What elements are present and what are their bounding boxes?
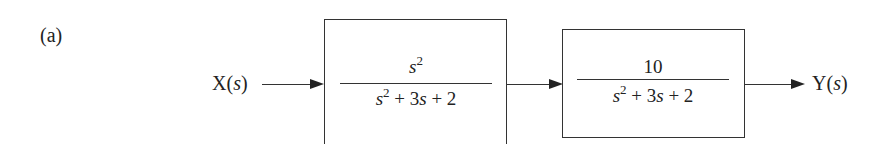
input-var: s xyxy=(233,72,241,94)
block-1-denominator: s2 + 3s + 2 xyxy=(340,88,492,110)
transfer-block-1 xyxy=(324,19,507,144)
input-arrow-line xyxy=(262,84,312,85)
arrowhead-icon xyxy=(310,79,324,89)
input-name: X xyxy=(212,72,226,94)
output-name: Y xyxy=(812,72,826,94)
block-2-numerator: 10 xyxy=(577,56,729,78)
arrowhead-icon xyxy=(791,79,805,89)
block-2-fraction-bar xyxy=(577,79,729,80)
block-2-denominator: s2 + 3s + 2 xyxy=(577,85,729,107)
input-signal-label: X(s) xyxy=(212,72,248,95)
block-1-fraction-bar xyxy=(340,83,492,84)
output-arrow-line xyxy=(745,84,793,85)
transfer-block-2 xyxy=(562,29,745,138)
output-signal-label: Y(s) xyxy=(812,72,848,95)
arrowhead-icon xyxy=(549,79,563,89)
output-var: s xyxy=(833,72,841,94)
figure-label: (a) xyxy=(40,24,62,47)
block-1-numerator: s2 xyxy=(340,56,492,78)
connector-arrow-line xyxy=(507,84,550,85)
